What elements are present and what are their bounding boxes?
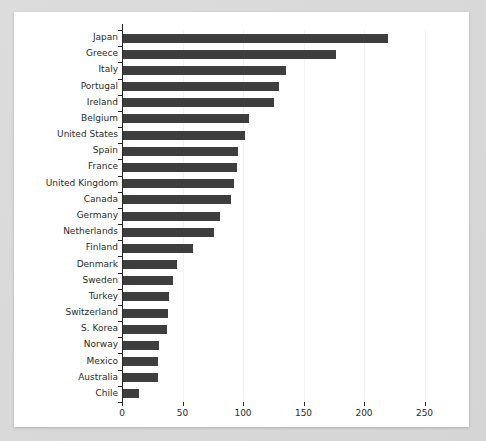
y-axis-label-norway: Norway <box>84 340 118 349</box>
y-axis-label-spain: Spain <box>93 146 118 155</box>
bar <box>123 260 177 269</box>
y-axis-label-portugal: Portugal <box>81 82 118 91</box>
y-tick-mark <box>118 79 122 80</box>
y-axis-label-ireland: Ireland <box>87 98 118 107</box>
y-tick-mark <box>118 46 122 47</box>
y-tick-mark <box>118 289 122 290</box>
y-tick-mark <box>118 143 122 144</box>
y-axis-label-france: France <box>88 162 118 171</box>
y-axis-label-canada: Canada <box>84 195 118 204</box>
bar <box>123 147 238 156</box>
x-tick-label: 200 <box>355 408 372 418</box>
y-axis-label-united-kingdom: United Kingdom <box>46 179 118 188</box>
bar <box>123 325 167 334</box>
gridline-x-250 <box>425 30 426 402</box>
y-tick-mark <box>118 95 122 96</box>
bar <box>123 244 193 253</box>
y-tick-mark <box>118 337 122 338</box>
plot-area <box>122 30 485 402</box>
y-axis-label-sweden: Sweden <box>82 276 118 285</box>
y-tick-mark <box>118 353 122 354</box>
bar <box>123 292 169 301</box>
bar <box>123 195 231 204</box>
bar <box>123 389 139 398</box>
x-tick-mark-0 <box>122 402 123 406</box>
figure-frame: JapanGreeceItalyPortugalIrelandBelgiumUn… <box>0 0 486 441</box>
bar <box>123 163 237 172</box>
y-axis-label-chile: Chile <box>95 389 118 398</box>
y-axis-label-switzerland: Switzerland <box>66 308 119 317</box>
bar <box>123 341 159 350</box>
y-tick-mark <box>118 62 122 63</box>
y-axis-label-australia: Australia <box>78 373 118 382</box>
y-tick-mark <box>118 386 122 387</box>
y-tick-mark <box>118 256 122 257</box>
x-tick-mark-100 <box>243 402 244 406</box>
y-axis-label-mexico: Mexico <box>87 357 118 366</box>
gridline-x-200 <box>364 30 365 402</box>
bar <box>123 50 336 59</box>
x-tick-mark-250 <box>425 402 426 406</box>
x-tick-label: 0 <box>119 408 125 418</box>
x-axis-tick-labels: 050100150200250 <box>122 402 485 422</box>
x-tick-mark-50 <box>183 402 184 406</box>
bar <box>123 276 173 285</box>
bar <box>123 179 234 188</box>
gridline-x-150 <box>304 30 305 402</box>
bar <box>123 66 286 75</box>
bar <box>123 309 168 318</box>
bar <box>123 373 158 382</box>
y-axis-label-s-korea: S. Korea <box>81 324 118 333</box>
y-tick-mark <box>118 192 122 193</box>
x-tick-label: 50 <box>177 408 188 418</box>
y-tick-mark <box>118 321 122 322</box>
y-tick-mark <box>118 273 122 274</box>
y-tick-mark <box>118 305 122 306</box>
bar <box>123 228 214 237</box>
y-tick-mark <box>118 127 122 128</box>
y-tick-mark <box>118 111 122 112</box>
chart-canvas: JapanGreeceItalyPortugalIrelandBelgiumUn… <box>14 12 469 427</box>
y-axis-label-finland: Finland <box>86 243 118 252</box>
y-tick-mark <box>118 224 122 225</box>
y-axis-category-labels: JapanGreeceItalyPortugalIrelandBelgiumUn… <box>14 30 118 402</box>
x-tick-label: 150 <box>295 408 312 418</box>
y-tick-mark <box>118 176 122 177</box>
y-axis-label-greece: Greece <box>86 49 118 58</box>
bar <box>123 357 158 366</box>
y-tick-mark <box>118 370 122 371</box>
x-tick-label: 100 <box>234 408 251 418</box>
bar <box>123 34 388 43</box>
x-tick-mark-150 <box>304 402 305 406</box>
y-axis-label-germany: Germany <box>77 211 118 220</box>
bar <box>123 131 245 140</box>
y-tick-mark <box>118 159 122 160</box>
y-axis-label-belgium: Belgium <box>81 114 118 123</box>
y-tick-mark <box>118 208 122 209</box>
y-axis-label-turkey: Turkey <box>89 292 118 301</box>
y-axis-label-denmark: Denmark <box>77 260 118 269</box>
x-tick-label: 250 <box>416 408 433 418</box>
y-tick-mark <box>118 240 122 241</box>
y-axis-label-netherlands: Netherlands <box>63 227 118 236</box>
y-axis-label-italy: Italy <box>98 65 118 74</box>
bar <box>123 98 274 107</box>
y-tick-mark <box>118 30 122 31</box>
bar <box>123 114 249 123</box>
y-axis-label-united-states: United States <box>57 130 118 139</box>
x-tick-mark-200 <box>364 402 365 406</box>
bar <box>123 212 220 221</box>
y-axis-label-japan: Japan <box>93 33 118 42</box>
bar <box>123 82 279 91</box>
